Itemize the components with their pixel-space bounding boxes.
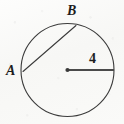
point-a-label: A [6, 64, 15, 78]
radius-value-label: 4 [89, 52, 96, 66]
geometry-figure: B A 4 [0, 0, 124, 124]
circle-center-point [65, 68, 69, 72]
figure-canvas [0, 0, 124, 124]
chord-ab-segment [23, 26, 76, 72]
point-b-label: B [67, 4, 76, 18]
